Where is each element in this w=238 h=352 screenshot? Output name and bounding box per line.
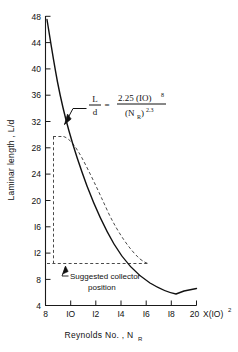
equation-rhs-denominator-exponent: 2.3 — [146, 107, 154, 113]
y-tick-label-10: 8 — [36, 275, 41, 285]
chart-figure: 48 44 40 36 32 28 24 20 I6 I2 8 4 8 IO I — [0, 0, 238, 352]
y-tick-label-0: 48 — [32, 12, 42, 22]
x-tick-label-6: 20 — [190, 309, 200, 319]
x-tick-label-1: IO — [66, 309, 75, 319]
y-tick-label-9: I2 — [34, 248, 41, 258]
x-axis-title: Reynolds No. , N — [64, 330, 133, 340]
equation-rhs-denominator: (N — [125, 108, 135, 118]
y-axis-title: Laminar length , L/d — [6, 119, 16, 200]
equation-rhs-denominator-close-paren: ) — [141, 108, 144, 118]
x-tick-label-4: I6 — [143, 309, 150, 319]
collector-note-line-2: position — [88, 283, 116, 292]
x-axis-title-subscript: R — [138, 336, 143, 342]
y-tick-label-3: 36 — [32, 90, 42, 100]
x-tick-label-2: I2 — [92, 309, 99, 319]
y-tick-label-8: I6 — [34, 222, 41, 232]
y-tick-label-2: 40 — [32, 64, 42, 74]
laminar-length-chart: 48 44 40 36 32 28 24 20 I6 I2 8 4 8 IO I — [0, 0, 238, 352]
y-tick-label-4: 32 — [32, 117, 42, 127]
collector-note-line-1: Suggested collector — [70, 272, 141, 281]
equation-rhs-numerator-exponent: 8 — [161, 92, 164, 98]
y-tick-label-6: 24 — [32, 169, 42, 179]
x-tick-label-5: I8 — [168, 309, 175, 319]
x-multiplier-label: X(IO) — [203, 309, 223, 319]
x-tick-label-0: 8 — [43, 309, 48, 319]
y-tick-label-7: 20 — [32, 196, 42, 206]
y-tick-label-1: 44 — [32, 38, 42, 48]
x-tick-label-3: I4 — [117, 309, 124, 319]
equation-lhs-numerator: L — [92, 94, 98, 104]
y-tick-label-5: 28 — [32, 143, 42, 153]
y-tick-label-11: 4 — [36, 301, 41, 311]
equation-lhs-denominator: d — [93, 107, 98, 117]
equation-equals-sign: = — [104, 100, 109, 110]
equation-rhs-numerator: 2.25 (IO) — [118, 93, 152, 103]
